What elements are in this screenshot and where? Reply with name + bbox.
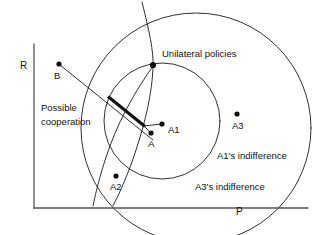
point-A2 (113, 173, 118, 178)
point-A2-label: A2 (110, 181, 122, 192)
unilateral-policies-label: Unilateral policies (162, 48, 236, 59)
a3-indifference-label: A3's indifference (195, 181, 265, 192)
a-to-a1-connector (144, 124, 162, 126)
possible-cooperation-label-line2: cooperation (41, 116, 91, 127)
point-B-label: B (54, 70, 60, 81)
a1-indifference-circle (104, 63, 220, 179)
point-A3 (234, 111, 239, 116)
possible-cooperation-segment (108, 97, 145, 127)
r-axis-label: R (20, 60, 27, 71)
a1-indifference-label: A1's indifference (217, 150, 287, 161)
figure-canvas: R P Unilateral policies Possible coopera… (0, 0, 327, 235)
point-A (148, 130, 153, 135)
point-A1 (159, 121, 164, 126)
point-A3-label: A3 (232, 120, 244, 131)
point-A-label: A (148, 138, 154, 149)
point-unilateral (150, 62, 156, 68)
possible-cooperation-label-line1: Possible (41, 102, 77, 113)
point-B (56, 61, 61, 66)
p-axis-label: P (236, 206, 243, 217)
point-A1-label: A1 (168, 124, 180, 135)
